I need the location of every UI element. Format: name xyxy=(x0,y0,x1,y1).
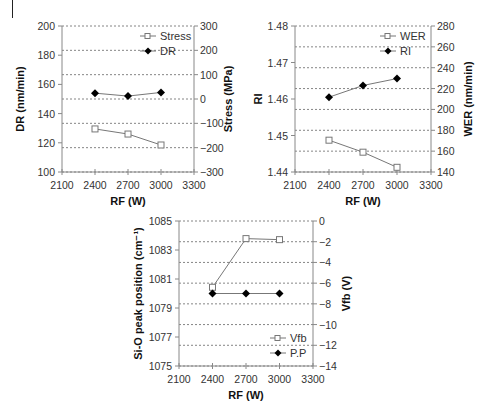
y2-axis-label: Stress (MPa) xyxy=(222,65,234,132)
legend: StressDR xyxy=(140,30,192,57)
data-point-square xyxy=(326,137,332,143)
legend-label: Vfb xyxy=(290,332,307,344)
x-tick-label: 2400 xyxy=(201,373,225,385)
data-point-square xyxy=(243,236,249,242)
y-tick-label: 1.45 xyxy=(268,130,289,142)
x-tick-label: 3300 xyxy=(301,373,325,385)
x-tick-label: 3000 xyxy=(268,373,292,385)
y-axis-label: DR (nm/min) xyxy=(14,66,26,132)
y2-tick-label: 240 xyxy=(437,62,455,74)
legend: WERRI xyxy=(380,30,426,57)
x-tick-label: 2400 xyxy=(317,179,341,191)
legend-label: RI xyxy=(400,45,411,57)
y-tick-label: 120 xyxy=(37,137,55,149)
data-point-square xyxy=(360,149,366,155)
legend-square-icon xyxy=(385,34,390,39)
legend-diamond-icon xyxy=(385,48,392,55)
y-axis-label: RI xyxy=(252,94,264,105)
y2-tick-label: −10 xyxy=(319,319,337,331)
y2-tick-label: 200 xyxy=(200,44,218,56)
x-tick-label: 2700 xyxy=(351,179,375,191)
y2-tick-label: −8 xyxy=(319,298,331,310)
legend-diamond-icon xyxy=(275,350,282,357)
legend-square-icon xyxy=(145,34,150,39)
y2-tick-label: −14 xyxy=(319,360,337,372)
data-point-square xyxy=(125,131,131,137)
data-point-square xyxy=(277,237,283,243)
data-point-square xyxy=(394,164,400,170)
y-tick-label: 1.44 xyxy=(268,166,289,178)
y2-tick-label: 100 xyxy=(200,69,218,81)
y-tick-label: 140 xyxy=(37,108,55,120)
x-tick-label: 2700 xyxy=(116,179,140,191)
data-point-diamond xyxy=(91,89,99,97)
y2-tick-label: −200 xyxy=(200,142,224,154)
y2-tick-label: −6 xyxy=(319,277,331,289)
chart3: 2100240027003000330010751077107910811083… xyxy=(132,215,352,401)
y-tick-label: 200 xyxy=(37,20,55,32)
y-tick-label: 180 xyxy=(37,49,55,61)
legend-square-icon xyxy=(275,336,280,341)
y2-tick-label: −300 xyxy=(200,166,224,178)
data-point-diamond xyxy=(276,290,284,298)
data-point-square xyxy=(92,126,98,132)
x-tick-label: 2100 xyxy=(167,373,191,385)
y2-tick-label: 180 xyxy=(437,124,455,136)
y-tick-label: 1.47 xyxy=(268,57,289,69)
legend-diamond-icon xyxy=(145,48,152,55)
y2-axis-label: WER (nm/min) xyxy=(462,61,474,136)
y-axis-label: Si-O peak position (cm⁻¹) xyxy=(132,227,144,360)
y-tick-label: 1081 xyxy=(149,273,173,285)
y-tick-label: 1079 xyxy=(149,302,173,314)
y2-tick-label: 160 xyxy=(437,145,455,157)
series-line-vfb xyxy=(213,239,280,288)
y2-tick-label: 200 xyxy=(437,103,455,115)
x-tick-label: 3000 xyxy=(385,179,409,191)
data-point-diamond xyxy=(393,75,401,83)
y2-tick-label: −2 xyxy=(319,236,331,248)
x-tick-label: 2100 xyxy=(50,179,74,191)
data-point-diamond xyxy=(157,88,165,96)
y2-tick-label: 0 xyxy=(200,93,206,105)
x-axis-label: RF (W) xyxy=(228,389,264,401)
legend-label: Stress xyxy=(160,30,192,42)
legend-label: P.P xyxy=(290,347,306,359)
y-tick-label: 1085 xyxy=(149,215,173,227)
y-tick-label: 1.46 xyxy=(268,93,289,105)
y-tick-label: 1075 xyxy=(149,360,173,372)
data-point-square xyxy=(210,284,216,290)
x-axis-label: RF (W) xyxy=(345,195,381,207)
y2-tick-label: −100 xyxy=(200,117,224,129)
y-tick-label: 1.48 xyxy=(268,20,289,32)
y2-axis-label: Vfb (V) xyxy=(340,275,352,311)
y2-tick-label: 0 xyxy=(319,215,325,227)
y2-tick-label: 220 xyxy=(437,83,455,95)
data-point-diamond xyxy=(325,93,333,101)
y2-tick-label: 280 xyxy=(437,20,455,32)
x-tick-label: 2700 xyxy=(234,373,258,385)
y-tick-label: 1077 xyxy=(149,331,173,343)
chart1: 21002400270030003300100120140160180200−3… xyxy=(14,20,234,207)
legend-label: WER xyxy=(400,30,426,42)
x-axis-label: RF (W) xyxy=(110,195,146,207)
y2-tick-label: 140 xyxy=(437,166,455,178)
x-tick-label: 3300 xyxy=(182,179,206,191)
y-tick-label: 1083 xyxy=(149,244,173,256)
data-point-square xyxy=(158,142,164,148)
x-tick-label: 2100 xyxy=(283,179,307,191)
x-tick-label: 3300 xyxy=(419,179,443,191)
y2-tick-label: −12 xyxy=(319,339,337,351)
figure: 21002400270030003300100120140160180200−3… xyxy=(0,0,487,412)
y2-tick-label: 260 xyxy=(437,41,455,53)
y2-tick-label: 300 xyxy=(200,20,218,32)
x-tick-label: 3000 xyxy=(149,179,173,191)
y2-tick-label: −4 xyxy=(319,256,331,268)
chart2: 210024002700300033001.441.451.461.471.48… xyxy=(252,20,474,207)
legend-label: DR xyxy=(160,45,176,57)
x-tick-label: 2400 xyxy=(83,179,107,191)
y-tick-label: 100 xyxy=(37,166,55,178)
data-point-diamond xyxy=(242,290,250,298)
y-tick-label: 160 xyxy=(37,78,55,90)
